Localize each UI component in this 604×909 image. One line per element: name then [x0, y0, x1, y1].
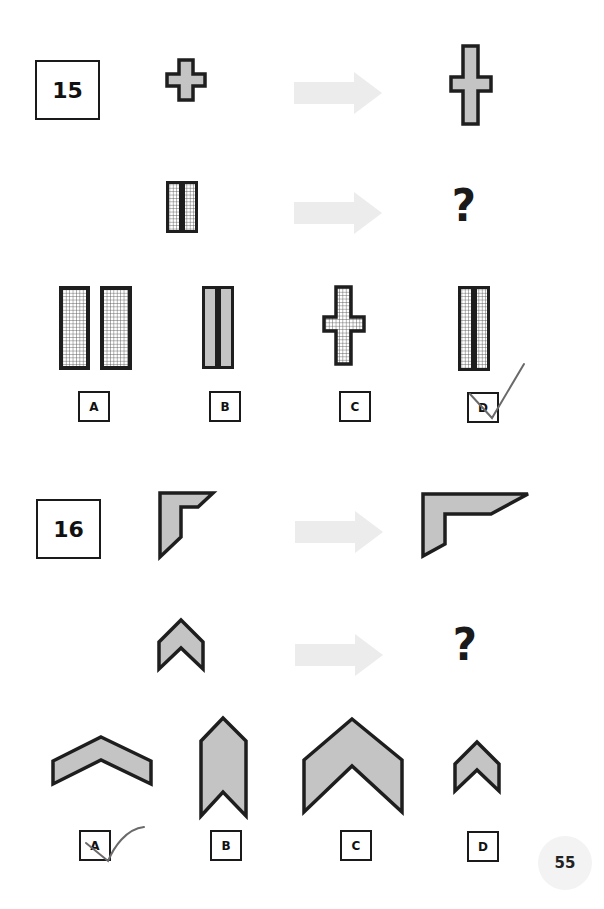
question-mark-icon: ? — [452, 184, 476, 228]
option-b-shape[interactable] — [202, 286, 234, 370]
option-c-shape[interactable] — [322, 285, 366, 366]
arrow-right-icon — [295, 511, 385, 553]
small-plus-shape — [165, 58, 207, 102]
arrow-right-icon — [295, 634, 385, 676]
option-c-button[interactable]: C — [340, 830, 372, 861]
option-a-shape[interactable] — [59, 286, 132, 370]
checkmark-icon — [466, 360, 536, 430]
wide-corner-shape — [421, 492, 531, 560]
option-d-button[interactable]: D — [467, 831, 499, 862]
two-grid-bars-shape — [166, 181, 199, 233]
question-number-16: 16 — [36, 499, 101, 559]
arrow-right-icon — [294, 72, 384, 114]
option-a-button[interactable]: A — [78, 391, 110, 422]
small-corner-shape — [158, 491, 216, 559]
option-b-button[interactable]: B — [209, 391, 241, 422]
small-chevron-shape — [156, 618, 206, 672]
arrow-right-icon — [294, 192, 384, 234]
tall-cross-shape — [449, 44, 493, 126]
option-c-shape[interactable] — [302, 717, 404, 815]
question-mark-icon: ? — [453, 623, 477, 667]
option-a-shape[interactable] — [51, 735, 153, 787]
question-number-15: 15 — [35, 60, 100, 120]
option-b-shape[interactable] — [199, 716, 249, 818]
option-c-button[interactable]: C — [339, 391, 371, 422]
option-b-button[interactable]: B — [210, 830, 242, 861]
page-number: 55 — [538, 836, 592, 890]
option-d-shape[interactable] — [452, 740, 502, 794]
checkmark-icon — [86, 823, 148, 865]
